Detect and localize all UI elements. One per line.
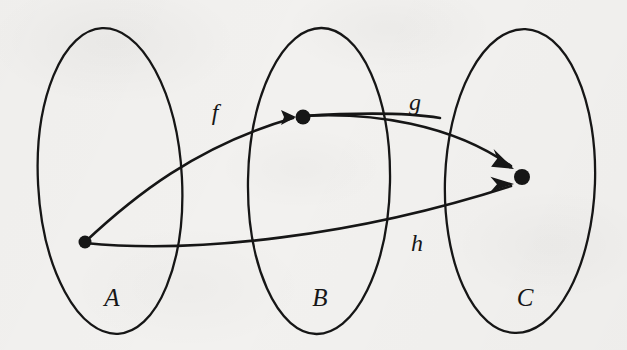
set-mapping-figure: A B C f g h [0, 0, 627, 350]
arrowhead-f [281, 110, 296, 125]
element-dots-group [79, 110, 531, 249]
set-label-c: C [517, 285, 534, 310]
arrow-label-f: f [212, 100, 219, 124]
set-label-a: A [104, 285, 119, 310]
arrow-curve-f [85, 118, 293, 242]
arrow-label-g: g [409, 90, 421, 114]
arrow-curve-g [303, 115, 511, 166]
arrow-label-h: h [411, 231, 423, 255]
element-dot-b [296, 110, 311, 125]
element-dot-a [79, 236, 92, 249]
set-label-b: B [312, 285, 327, 310]
arrowhead-g [491, 149, 516, 170]
element-dot-c [514, 169, 530, 185]
